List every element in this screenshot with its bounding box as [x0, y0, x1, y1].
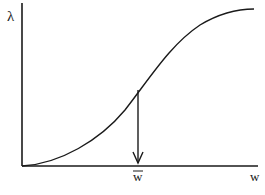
- sigmoid-diagram: λ w w: [0, 0, 265, 195]
- y-axis-label: λ: [7, 8, 15, 24]
- x-axis-label: w: [250, 169, 260, 184]
- marker-label: w: [133, 169, 143, 184]
